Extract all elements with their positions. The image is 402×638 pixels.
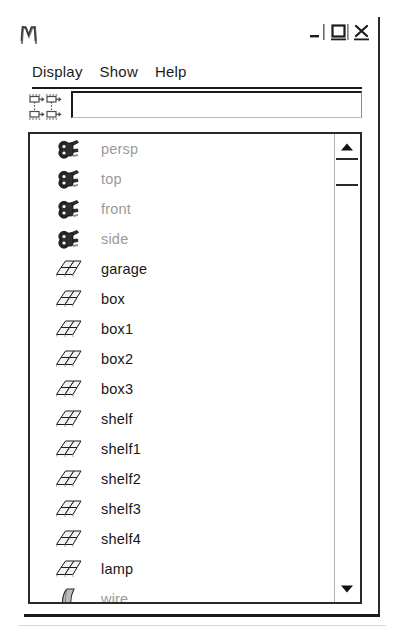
mesh-icon [54,526,84,552]
outliner-row-label: box2 [101,352,133,367]
curve-icon [54,586,84,602]
minimize-button[interactable] [306,23,326,42]
outliner-row[interactable]: shelf2 [30,464,336,494]
filter-icon-group[interactable] [28,94,68,124]
mesh-icon [54,376,84,402]
mesh-icon [54,466,84,492]
menu-bar: Display Show Help [14,59,380,83]
outliner-row-label: shelf3 [101,502,141,517]
title-bar [14,17,380,55]
outliner-row-label: wire [101,592,128,602]
outliner-row-label: garage [101,262,147,277]
outliner-row[interactable]: front [30,194,336,224]
menu-item-show[interactable]: Show [100,64,138,79]
outliner-row[interactable]: box2 [30,344,336,374]
outliner-row-label: box [101,292,125,307]
outliner-row[interactable]: box [30,284,336,314]
outliner-row[interactable]: garage [30,254,336,284]
scroll-up-arrow-icon[interactable] [336,137,358,157]
outliner-row-label: shelf2 [101,472,141,487]
window-frame-shadow [18,625,386,626]
outliner-row-label: top [101,172,122,187]
filter-bar [14,91,380,127]
camera-icon [54,226,84,252]
outliner-row-label: box3 [101,382,133,397]
outliner-row-label: shelf4 [101,532,141,547]
window-frame-bottom-edge [24,614,380,617]
outliner-list: persp top front [28,132,362,604]
outliner-window: Display Show Help [14,17,380,617]
mesh-icon [54,556,84,582]
search-field[interactable] [71,91,362,118]
menu-item-help[interactable]: Help [155,64,187,79]
mesh-icon [54,256,84,282]
outliner-row-label: lamp [101,562,133,577]
scroll-down-arrow-icon[interactable] [336,579,358,599]
outliner-row[interactable]: shelf1 [30,434,336,464]
outliner-row[interactable]: side [30,224,336,254]
scrollbar-thumb[interactable] [336,158,358,186]
maya-m-logo-icon [18,23,44,49]
outliner-row[interactable]: box1 [30,314,336,344]
mesh-icon [54,436,84,462]
outliner-scroll-area[interactable]: persp top front [30,134,336,602]
outliner-row[interactable]: wire [30,584,336,602]
mesh-icon [54,316,84,342]
camera-icon [54,136,84,162]
outliner-row[interactable]: shelf [30,404,336,434]
mesh-icon [54,286,84,312]
outliner-row-label: persp [101,142,138,157]
outliner-row-label: box1 [101,322,133,337]
window-controls [306,23,372,45]
outliner-row-label: shelf [101,412,133,427]
maximize-button[interactable] [329,23,349,42]
outliner-row[interactable]: shelf4 [30,524,336,554]
outliner-row[interactable]: box3 [30,374,336,404]
menu-item-display[interactable]: Display [32,64,83,79]
vertical-scrollbar[interactable] [334,134,360,602]
camera-icon [54,196,84,222]
mesh-icon [54,496,84,522]
close-button[interactable] [352,23,372,42]
mesh-icon [54,346,84,372]
outliner-row[interactable]: persp [30,134,336,164]
outliner-row-label: shelf1 [101,442,141,457]
menu-bar-divider [32,87,362,89]
outliner-row-label: front [101,202,131,217]
outliner-row[interactable]: lamp [30,554,336,584]
outliner-row[interactable]: top [30,164,336,194]
outliner-row-label: side [101,232,128,247]
scrollbar-track[interactable] [334,134,335,602]
mesh-icon [54,406,84,432]
search-input[interactable] [73,93,361,117]
outliner-row[interactable]: shelf3 [30,494,336,524]
camera-icon [54,166,84,192]
